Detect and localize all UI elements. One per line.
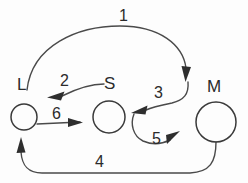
node-S-circle[interactable] bbox=[93, 101, 125, 133]
edge-2-arrowhead bbox=[47, 92, 65, 101]
node-label-S: S bbox=[104, 75, 115, 92]
edge-label-2: 2 bbox=[60, 73, 69, 89]
edge-2-group bbox=[47, 84, 104, 101]
edge-1-arrowhead bbox=[182, 66, 192, 82]
node-L-circle[interactable] bbox=[11, 104, 37, 130]
node-label-L: L bbox=[17, 76, 26, 93]
edge-3-path bbox=[146, 82, 188, 110]
edge-5-arrowhead bbox=[166, 131, 180, 144]
edge-label-3: 3 bbox=[154, 85, 163, 101]
edge-4-arrowhead bbox=[17, 137, 26, 153]
edge-6-arrowhead bbox=[68, 118, 83, 127]
edge-4-group bbox=[17, 137, 217, 173]
edge-label-4: 4 bbox=[95, 154, 104, 170]
diagram-canvas: L S M 1 2 3 4 5 6 bbox=[0, 0, 248, 183]
edge-label-6: 6 bbox=[52, 106, 61, 122]
edge-3-arrowhead bbox=[131, 106, 148, 115]
node-M-circle[interactable] bbox=[196, 102, 236, 142]
edge-4-path bbox=[21, 142, 216, 173]
node-label-M: M bbox=[207, 78, 221, 95]
edge-label-1: 1 bbox=[119, 8, 128, 24]
edge-label-5: 5 bbox=[152, 131, 161, 147]
